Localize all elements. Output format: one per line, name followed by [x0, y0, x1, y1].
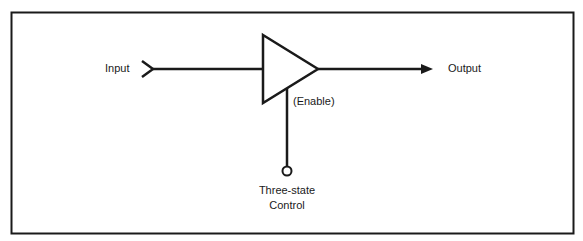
control-label-line1: Three-state	[247, 184, 327, 197]
control-label-line2: Control	[247, 199, 327, 212]
input-chevron-icon	[142, 61, 153, 77]
enable-label: (Enable)	[293, 95, 335, 108]
control-terminal-icon	[283, 167, 292, 176]
output-label: Output	[448, 62, 481, 75]
buffer-triangle	[263, 35, 318, 103]
output-arrowhead-icon	[421, 64, 433, 74]
input-label: Input	[105, 62, 129, 75]
